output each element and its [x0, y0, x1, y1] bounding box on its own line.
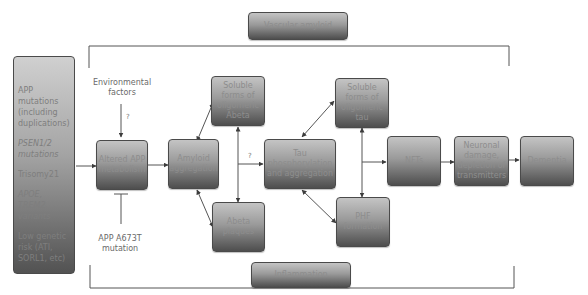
- tau-phosphorylation-box: Tau phosphorylation and aggregation: [264, 139, 336, 189]
- app-a673t-label: APP A673T mutation: [92, 234, 148, 254]
- tau-question-mark: ?: [248, 152, 252, 160]
- phf-label: PHF formation: [339, 212, 387, 232]
- neuronal-damage-label: Neuronal damage, depletion of transmitte…: [457, 141, 506, 181]
- risk-factor-app: APP mutations (including duplications): [18, 85, 70, 129]
- top-bracket: [89, 46, 509, 68]
- vascular-amyloid-label: Vascular amyloid: [264, 21, 332, 31]
- abeta-plaques-box: Abeta plaques: [212, 202, 265, 252]
- risk-factor-low-genetic: Low genetic risk (ATI, SORL1, etc): [18, 231, 70, 264]
- soluble-abeta-label: Soluble forms of oligomeric Abeta: [214, 81, 262, 121]
- altered-app-metabolism-box: Altered APP metabolism: [96, 140, 148, 190]
- phf-formation-box: PHF formation: [336, 197, 390, 247]
- risk-factors-box: APP mutations (including duplications) P…: [13, 56, 75, 274]
- risk-factor-apoe: APOE, TREM2 variants: [18, 189, 70, 222]
- risk-factor-psen: PSEN1/2 mutations: [18, 138, 70, 160]
- inflammation-box: Inflammation: [251, 262, 351, 288]
- altered-app-label: Altered APP metabolism: [98, 155, 145, 175]
- inflammation-label: Inflammation: [274, 270, 327, 280]
- dementia-box: Dementia: [520, 136, 574, 186]
- soluble-tau-label: Soluble forms of oligomeric tau: [338, 83, 386, 123]
- risk-factor-trisomy: Trisomy21: [18, 169, 70, 180]
- neuronal-damage-box: Neuronal damage, depletion of transmitte…: [454, 136, 509, 186]
- tau-label: Tau phosphorylation and aggregation: [267, 149, 333, 179]
- amyloid-aggregation-box: Amyloid aggregation: [168, 139, 219, 189]
- nfts-label: NFTs: [405, 156, 423, 166]
- vascular-amyloid-box: Vascular amyloid: [248, 12, 348, 40]
- soluble-tau-box: Soluble forms of oligomeric tau: [335, 78, 389, 128]
- abeta-plaques-label: Abeta plaques: [215, 217, 262, 237]
- nfts-box: NFTs: [387, 136, 441, 186]
- environmental-factors-label: Environmental factors: [92, 78, 152, 98]
- env-question-mark: ?: [126, 113, 130, 121]
- dementia-label: Dementia: [527, 156, 566, 166]
- amyloid-aggregation-label: Amyloid aggregation: [169, 154, 217, 174]
- soluble-abeta-box: Soluble forms of oligomeric Abeta: [211, 76, 265, 126]
